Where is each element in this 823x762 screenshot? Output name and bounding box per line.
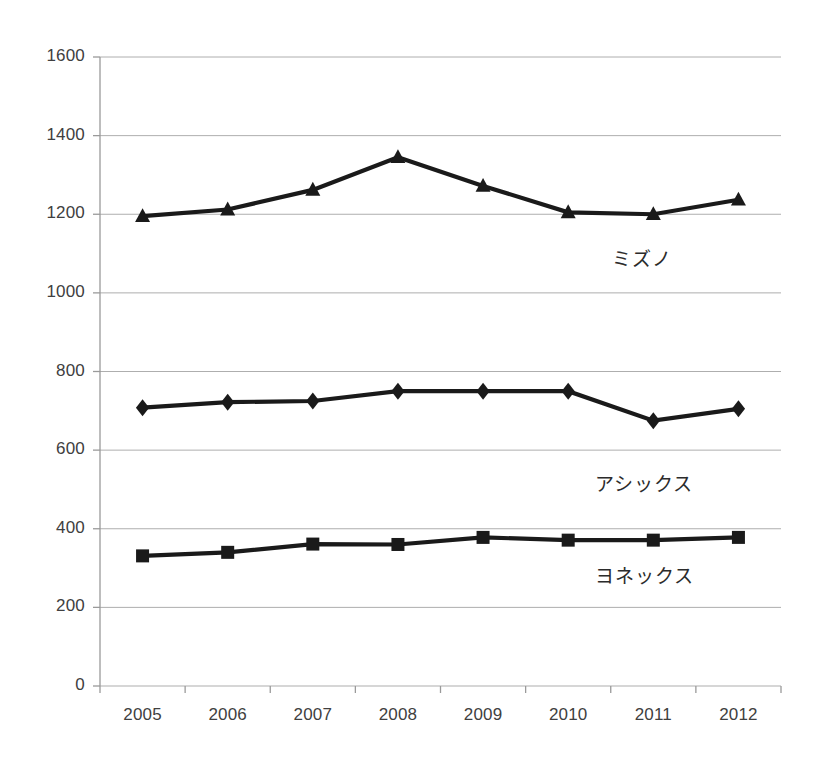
axis-ticks-group: [93, 57, 781, 693]
y-axis-tick-label: 200: [15, 596, 85, 616]
gridlines-group: [100, 57, 781, 686]
data-point-marker: [136, 549, 149, 562]
y-axis-tick-label: 1600: [15, 46, 85, 66]
x-axis-tick-label: 2008: [353, 705, 443, 725]
series-line-1: [143, 391, 739, 420]
data-point-marker: [562, 534, 575, 547]
data-point-marker: [732, 400, 745, 417]
y-axis-tick-label: 800: [15, 361, 85, 381]
y-axis-tick-label: 1400: [15, 125, 85, 145]
x-axis-tick-label: 2009: [438, 705, 528, 725]
x-axis-tick-label: 2011: [608, 705, 698, 725]
data-series-group: [135, 149, 746, 562]
y-axis-tick-label: 1200: [15, 203, 85, 223]
x-axis-tick-label: 2005: [98, 705, 188, 725]
data-point-marker: [136, 399, 149, 416]
x-axis-tick-label: 2010: [523, 705, 613, 725]
data-point-marker: [221, 394, 234, 411]
data-point-marker: [390, 149, 405, 163]
data-point-marker: [476, 383, 489, 400]
data-point-marker: [221, 546, 234, 559]
x-axis-tick-label: 2007: [268, 705, 358, 725]
x-axis-tick-label: 2012: [693, 705, 783, 725]
data-point-marker: [391, 383, 404, 400]
data-point-marker: [306, 538, 319, 551]
line-chart: 16001400120010008006004002000 2005200620…: [0, 0, 823, 762]
y-axis-tick-label: 400: [15, 518, 85, 538]
y-axis-tick-label: 1000: [15, 282, 85, 302]
series-label-asics: アシックス: [595, 469, 693, 496]
series-label-yonex: ヨネックス: [595, 561, 694, 588]
y-axis-tick-label: 600: [15, 439, 85, 459]
x-axis-tick-label: 2006: [183, 705, 273, 725]
y-axis-tick-label: 0: [15, 675, 85, 695]
data-point-marker: [306, 392, 319, 409]
data-point-marker: [391, 538, 404, 551]
series-label-mizuno: ミズノ: [612, 244, 672, 271]
data-point-marker: [562, 383, 575, 400]
data-point-marker: [647, 412, 660, 429]
chart-canvas: [0, 0, 823, 762]
series-line-0: [143, 157, 739, 216]
data-point-marker: [732, 531, 745, 544]
data-point-marker: [647, 534, 660, 547]
data-point-marker: [477, 531, 490, 544]
